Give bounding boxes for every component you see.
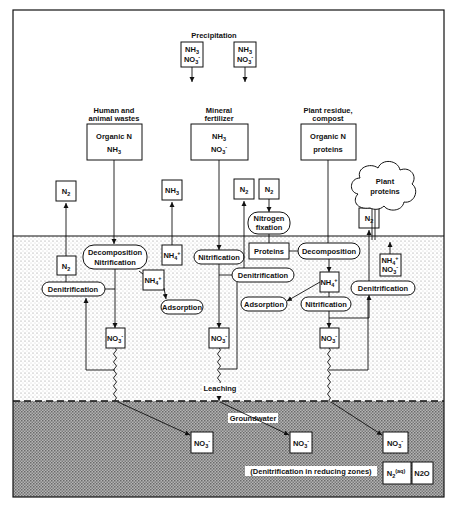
svg-text:N2O: N2O	[414, 469, 430, 478]
plant-uptake-box: NH4+ NO3-	[380, 254, 401, 276]
svg-text:Adsorption: Adsorption	[244, 300, 284, 309]
svg-text:fixation: fixation	[256, 223, 283, 232]
nh3-volatilization-box: NH3	[162, 180, 182, 200]
svg-text:Adsorption: Adsorption	[162, 303, 202, 312]
n2-aq-box: N2(aq)	[383, 462, 411, 484]
gw-no3-box-2: NO3-	[290, 432, 312, 453]
svg-text:NO3-: NO3-	[387, 438, 403, 449]
n2-soil-box-left: N2	[57, 256, 76, 275]
groundwater-label: Groundwater	[230, 414, 277, 423]
precip-box-1: NH3 NO3-	[181, 42, 203, 67]
svg-text:Nitrification: Nitrification	[198, 253, 240, 262]
n2-box-right: N2	[359, 208, 379, 228]
source-heading-wastes-2: animal wastes	[89, 114, 140, 123]
no3-box-left: NO3-	[106, 328, 125, 348]
decomposition-right-process: Decomposition	[298, 243, 360, 259]
svg-text:NO3-: NO3-	[194, 438, 210, 449]
svg-text:NO3-: NO3-	[184, 54, 200, 65]
svg-text:Nitrification: Nitrification	[94, 258, 136, 267]
nh4-box-right: NH4+	[320, 272, 339, 292]
decomposition-nitrification-process: Decomposition Nitrification	[83, 245, 147, 269]
adsorption-mid-process: Adsorption	[241, 297, 287, 311]
source-heading-fertilizer-2: fertilizer	[204, 114, 233, 123]
reducing-zones-note: (Denitrification in reducing zones)	[250, 467, 372, 476]
n2o-box: N2O	[412, 462, 433, 484]
nitrification-right-process: Nitrification	[301, 297, 351, 311]
svg-text:NO3-: NO3-	[293, 438, 309, 449]
precipitation-label: Precipitation	[191, 31, 237, 40]
svg-text:NO3-: NO3-	[382, 264, 398, 275]
svg-text:NO3-: NO3-	[321, 333, 337, 344]
n2-box-left: N2	[56, 181, 76, 201]
svg-text:Organic N: Organic N	[310, 132, 346, 141]
svg-text:NO3-: NO3-	[107, 333, 123, 344]
source-box-wastes: Organic N NH3	[87, 124, 142, 160]
nitrification-mid-process: Nitrification	[194, 250, 244, 264]
svg-text:Nitrogen: Nitrogen	[254, 214, 285, 223]
nitrogen-fixation-process: Nitrogen fixation	[248, 212, 290, 234]
source-box-fertilizer: NH3 NO3-	[191, 124, 248, 160]
svg-text:NO3-: NO3-	[237, 54, 253, 65]
svg-text:Denitrification: Denitrification	[358, 284, 409, 293]
svg-text:proteins: proteins	[313, 145, 343, 154]
svg-text:Nitrification: Nitrification	[305, 300, 347, 309]
svg-text:Plant: Plant	[376, 177, 395, 186]
no3-box-right: NO3-	[320, 328, 339, 348]
svg-text:Decomposition: Decomposition	[302, 247, 357, 256]
no3-box-mid: NO3-	[209, 328, 229, 348]
svg-text:Denitrification: Denitrification	[48, 285, 99, 294]
gw-no3-box-3: NO3-	[383, 432, 408, 453]
svg-text:NO3-: NO3-	[211, 333, 227, 344]
proteins-box: Proteins	[249, 243, 289, 259]
svg-text:Proteins: Proteins	[254, 247, 284, 256]
svg-text:proteins: proteins	[370, 187, 400, 196]
svg-text:Decomposition: Decomposition	[88, 248, 143, 257]
svg-text:NO3-: NO3-	[211, 144, 227, 155]
n2-box-mid: N2	[234, 179, 254, 199]
leaching-label: Leaching	[204, 384, 237, 393]
source-box-residue: Organic N proteins	[301, 124, 356, 160]
svg-text:Denitrification: Denitrification	[238, 271, 289, 280]
nh4-box-left: NH4+	[143, 270, 164, 290]
nh4-box-mid: NH4+	[162, 245, 182, 265]
n2-fixation-source-box: N2	[259, 179, 279, 199]
denitrification-left-process: Denitrification	[42, 282, 105, 296]
precip-box-2: NH3 NO3-	[234, 42, 256, 67]
denitrification-mid-process: Denitrification	[232, 268, 294, 282]
adsorption-left-process: Adsorption	[161, 300, 203, 314]
nitrogen-cycle-diagram: Precipitation NH3 NO3- NH3 NO3- Human an…	[0, 0, 454, 511]
svg-text:Organic N: Organic N	[96, 132, 132, 141]
source-heading-residue-2: compost	[312, 114, 344, 123]
denitrification-right-process: Denitrification	[351, 281, 415, 295]
gw-no3-box-1: NO3-	[191, 432, 213, 453]
